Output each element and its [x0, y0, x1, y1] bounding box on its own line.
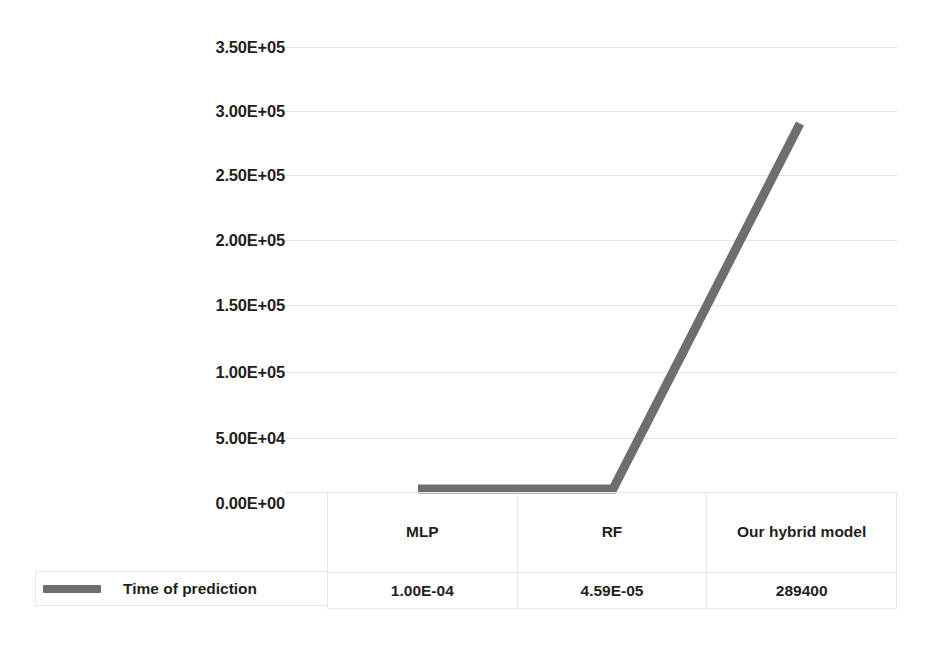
series-polyline	[418, 124, 800, 490]
series-line-time-of-prediction	[285, 40, 897, 500]
y-tick-label: 2.50E+05	[125, 166, 285, 185]
y-axis-tick-labels: 3.50E+05 3.00E+05 2.50E+05 2.00E+05 1.50…	[125, 0, 285, 646]
y-tick-label: 3.00E+05	[125, 102, 285, 121]
column-header-our-hybrid-model: Our hybrid model	[707, 493, 897, 573]
column-header-rf: RF	[517, 493, 707, 573]
cell-hybrid-value: 289400	[707, 573, 897, 609]
y-tick-label: 2.00E+05	[125, 231, 285, 250]
cell-rf-value: 4.59E-05	[517, 573, 707, 609]
column-header-mlp: MLP	[328, 493, 518, 573]
legend-label: Time of prediction	[123, 580, 257, 598]
line-chart: 3.50E+05 3.00E+05 2.50E+05 2.00E+05 1.50…	[0, 0, 938, 646]
cell-mlp-value: 1.00E-04	[328, 573, 518, 609]
y-tick-label: 5.00E+04	[125, 429, 285, 448]
plot-area	[285, 40, 897, 500]
data-table: MLP RF Our hybrid model 1.00E-04 4.59E-0…	[327, 492, 897, 609]
table-row: 1.00E-04 4.59E-05 289400	[328, 573, 897, 609]
table-header-row: MLP RF Our hybrid model	[328, 493, 897, 573]
legend: Time of prediction	[35, 571, 327, 606]
legend-swatch-icon	[43, 585, 101, 593]
y-tick-label: 1.00E+05	[125, 363, 285, 382]
y-tick-label: 0.00E+00	[125, 494, 285, 513]
y-tick-label: 1.50E+05	[125, 296, 285, 315]
y-tick-label: 3.50E+05	[125, 38, 285, 57]
